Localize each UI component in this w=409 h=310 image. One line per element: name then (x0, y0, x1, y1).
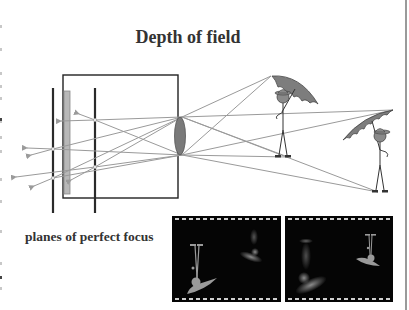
near-figure-with-umbrella (272, 76, 318, 158)
camera-box (63, 75, 178, 198)
depth-of-field-diagram (0, 0, 409, 310)
image-sensor (64, 91, 70, 194)
far-figure-with-umbrella (343, 110, 393, 193)
lens (175, 117, 186, 155)
thumbnail-near-focus (172, 216, 281, 302)
thumbnail-far-focus (285, 216, 393, 302)
right-border-line (405, 0, 407, 310)
light-rays (16, 76, 393, 192)
planes-of-focus-label: planes of perfect focus (25, 229, 154, 245)
